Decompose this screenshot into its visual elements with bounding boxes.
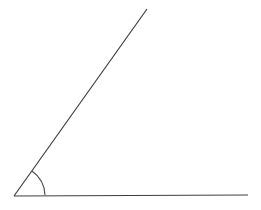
diagram-canvas: [0, 0, 261, 210]
angle-figure: [0, 0, 261, 210]
